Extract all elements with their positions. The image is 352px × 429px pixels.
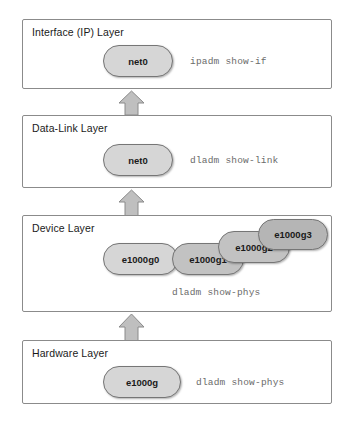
layer-title-hardware: Hardware Layer [32, 347, 108, 359]
command-label-dladm-show-phys-device: dladm show-phys [172, 287, 261, 298]
layer-title-device: Device Layer [32, 222, 94, 234]
node-pill-e1000g3: e1000g3 [258, 219, 328, 250]
node-pill-e1000g0: e1000g0 [103, 243, 178, 275]
node-pill-e1000g: e1000g [103, 366, 181, 398]
command-label-dladm-show-link: dladm show-link [190, 155, 279, 166]
layer-box-data-link: Data-Link Layer [22, 115, 332, 188]
network-stack-diagram: Interface (IP) Layer net0 ipadm show-if … [0, 0, 352, 429]
layer-title-data-link: Data-Link Layer [32, 122, 108, 134]
command-label-ipadm-show-if: ipadm show-if [190, 56, 267, 67]
node-pill-net0-datalink: net0 [103, 144, 173, 176]
layer-box-interface: Interface (IP) Layer [22, 19, 332, 89]
node-pill-net0-interface: net0 [103, 45, 173, 77]
arrow-datalink-to-interface [118, 90, 145, 115]
layer-title-interface: Interface (IP) Layer [32, 26, 124, 38]
command-label-dladm-show-phys-hardware: dladm show-phys [196, 377, 285, 388]
